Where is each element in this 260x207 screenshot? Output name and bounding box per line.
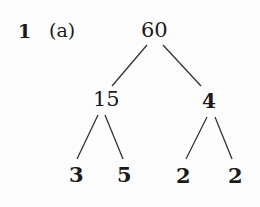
branch-4-2b [215,117,232,159]
branch-4-2a [186,117,207,159]
tree-leaf-5: 5 [117,164,132,185]
branch-60-15 [112,45,147,86]
branch-15-5 [105,115,123,159]
branch-15-3 [77,115,98,159]
tree-leaf-3: 3 [69,164,84,185]
tree-leaf-2a: 2 [176,165,191,186]
tree-leaf-2b: 2 [228,165,243,186]
question-number: 1 [18,22,31,41]
tree-node-root: 60 [141,20,168,41]
factor-tree-figure: 1 (a) 60 15 4 3 5 2 2 [0,0,260,207]
branch-60-4 [163,45,201,86]
tree-node-4: 4 [202,91,216,111]
question-part-label: (a) [49,21,75,40]
tree-node-15: 15 [93,89,120,110]
